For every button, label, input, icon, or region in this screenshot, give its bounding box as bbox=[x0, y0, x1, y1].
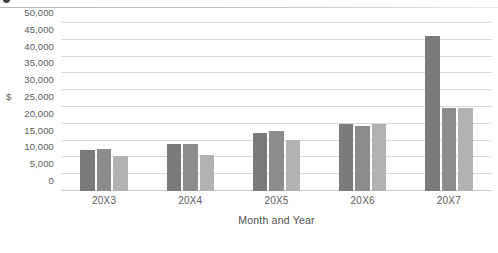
y-axis-tick-label: 5,000 bbox=[30, 158, 54, 169]
plot-area bbox=[61, 23, 492, 191]
y-axis-tick-labels: 50,00045,00040,00035,00030,00025,00020,0… bbox=[0, 23, 58, 191]
bar-group bbox=[253, 23, 301, 191]
x-axis-tick-label: 20X5 bbox=[264, 195, 288, 206]
bars-layer bbox=[61, 23, 492, 191]
bar[interactable] bbox=[200, 155, 215, 191]
bar-chart: 50,00045,00040,00035,00030,00025,00020,0… bbox=[0, 9, 498, 253]
screenshot-root: 50,00045,00040,00035,00030,00025,00020,0… bbox=[0, 0, 498, 253]
x-axis-title: Month and Year bbox=[61, 214, 492, 226]
bar[interactable] bbox=[355, 126, 370, 191]
bar[interactable] bbox=[442, 108, 457, 191]
y-axis-tick-label: 15,000 bbox=[24, 124, 54, 135]
bar[interactable] bbox=[269, 131, 284, 191]
dot-icon bbox=[3, 0, 10, 3]
header-divider bbox=[0, 7, 498, 8]
bar[interactable] bbox=[113, 156, 128, 191]
y-axis-tick-label: 0 bbox=[49, 175, 54, 186]
bar[interactable] bbox=[253, 133, 268, 191]
bar[interactable] bbox=[339, 124, 354, 191]
y-axis-tick-label: 45,000 bbox=[24, 23, 54, 34]
y-axis-tick-label: 20,000 bbox=[24, 107, 54, 118]
y-axis-tick-label: 40,000 bbox=[24, 40, 54, 51]
bar-group bbox=[167, 23, 215, 191]
x-axis-tick-label: 20X4 bbox=[178, 195, 202, 206]
bar[interactable] bbox=[97, 149, 112, 191]
x-axis-tick-labels: 20X320X420X520X620X7 bbox=[61, 195, 492, 211]
y-axis-tick-label: 35,000 bbox=[24, 57, 54, 68]
bar[interactable] bbox=[80, 150, 95, 191]
y-axis-unit-label: $ bbox=[6, 91, 11, 102]
bar-group bbox=[80, 23, 128, 191]
clipped-header-strip bbox=[0, 0, 498, 9]
y-axis-tick-label: 10,000 bbox=[24, 141, 54, 152]
bar[interactable] bbox=[425, 36, 440, 191]
bar-group bbox=[425, 23, 473, 191]
bar[interactable] bbox=[372, 124, 387, 191]
y-axis-tick-label: 50,000 bbox=[24, 7, 54, 18]
y-axis-tick-label: 30,000 bbox=[24, 74, 54, 85]
bar[interactable] bbox=[167, 144, 182, 191]
x-axis-tick-label: 20X7 bbox=[437, 195, 461, 206]
x-axis-tick-label: 20X3 bbox=[92, 195, 116, 206]
x-axis-tick-label: 20X6 bbox=[351, 195, 375, 206]
bar[interactable] bbox=[183, 144, 198, 191]
bar[interactable] bbox=[458, 108, 473, 191]
bar-group bbox=[339, 23, 387, 191]
y-axis-tick-label: 25,000 bbox=[24, 91, 54, 102]
bar[interactable] bbox=[286, 140, 301, 191]
